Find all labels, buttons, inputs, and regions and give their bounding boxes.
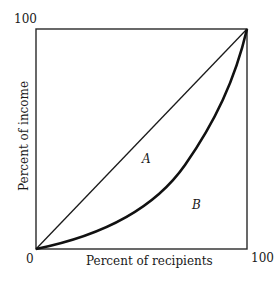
equality-line	[36, 29, 247, 249]
y-axis-label: Percent of income	[17, 81, 31, 191]
x-max-tick-label: 100	[251, 251, 274, 265]
region-a-label: A	[141, 152, 151, 166]
x-min-tick-label: 0	[26, 252, 34, 266]
y-max-tick-label: 100	[14, 12, 37, 26]
region-b-label: B	[191, 198, 201, 212]
lorenz-diagram: 100 0 100 Percent of recipients Percent …	[0, 0, 280, 284]
x-axis-label: Percent of recipients	[86, 254, 213, 268]
